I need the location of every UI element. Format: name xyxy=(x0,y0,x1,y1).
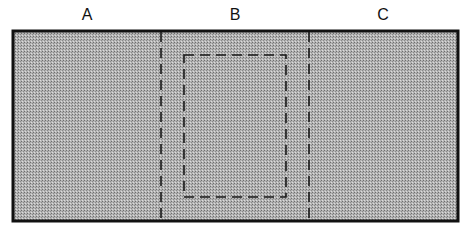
diagram: A B C xyxy=(0,0,469,233)
outer-rectangle xyxy=(13,31,458,221)
diagram-graphic xyxy=(0,0,469,233)
